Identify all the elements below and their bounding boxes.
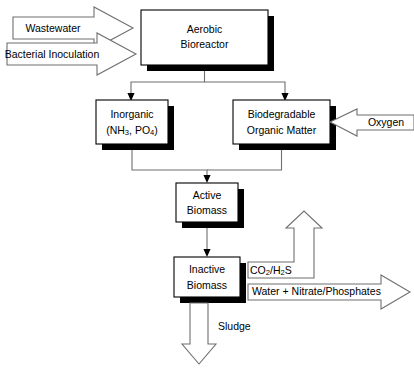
process-flow-diagram: Wastewater Bacterial Inoculation Aerobic… <box>0 0 414 370</box>
node-inactive-biomass: Inactive Biomass <box>174 257 246 303</box>
co2-h2s-formula: CO2/H2S <box>250 264 292 277</box>
water-nitrate-phosphates-label: Water + Nitrate/Phosphates <box>252 285 381 297</box>
connector-bioreactor-split <box>127 71 288 101</box>
node-inorganic: Inorganic (NH3, PO4) <box>96 100 174 150</box>
connector-arrowhead-active-biomass <box>203 175 210 183</box>
output-arrow-water-nitrate-phosphates: Water + Nitrate/Phosphates <box>248 275 410 309</box>
bacterial-inoculation-label: Bacterial Inoculation <box>5 48 100 60</box>
oxygen-label: Oxygen <box>368 116 404 128</box>
sludge-arrow-shape <box>182 303 216 364</box>
node-aerobic-bioreactor: Aerobic Bioreactor <box>141 10 274 71</box>
connector-to-biodegradable <box>205 82 286 95</box>
biodegradable-label-line1: Biodegradable <box>248 108 316 120</box>
connector-inorganic-to-active <box>132 150 207 177</box>
co2-h2s-suffix: S <box>285 264 292 276</box>
biodegradable-label-line2: Organic Matter <box>247 124 317 136</box>
connector-biodegradable-to-active <box>207 150 282 170</box>
sludge-label: Sludge <box>218 320 251 332</box>
active-biomass-label-line2: Biomass <box>187 204 227 216</box>
output-arrow-sludge: Sludge <box>182 303 251 364</box>
inorganic-box <box>96 100 168 144</box>
connector-merge-to-active-biomass <box>132 150 282 183</box>
aerobic-bioreactor-label-line1: Aerobic <box>187 23 223 35</box>
node-biodegradable-organic-matter: Biodegradable Organic Matter <box>233 100 336 150</box>
active-biomass-label-line1: Active <box>193 189 222 201</box>
inactive-biomass-label-line2: Biomass <box>187 279 227 291</box>
inorganic-formula-prefix: (NH <box>106 124 125 136</box>
inorganic-formula-mid: , PO <box>129 124 150 136</box>
inorganic-formula: (NH3, PO4) <box>106 124 158 137</box>
node-active-biomass: Active Biomass <box>176 183 244 228</box>
inorganic-label-line1: Inorganic <box>110 108 153 120</box>
aerobic-bioreactor-label-line2: Bioreactor <box>181 38 229 50</box>
wastewater-label: Wastewater <box>25 22 81 34</box>
biodegradable-box <box>233 100 330 144</box>
inorganic-formula-suffix: ) <box>154 124 158 136</box>
co2-h2s-prefix: CO <box>250 264 266 276</box>
input-arrow-oxygen: Oxygen <box>330 109 414 136</box>
connector-arrowhead-inactive-biomass <box>203 249 210 257</box>
diagram-canvas: Wastewater Bacterial Inoculation Aerobic… <box>0 0 414 370</box>
inactive-biomass-label-line1: Inactive <box>189 263 225 275</box>
co2-h2s-mid: /H <box>270 264 281 276</box>
connector-to-inorganic <box>131 71 205 95</box>
output-arrow-co2-h2s: CO2/H2S <box>248 211 322 278</box>
connector-active-to-inactive <box>203 228 210 257</box>
